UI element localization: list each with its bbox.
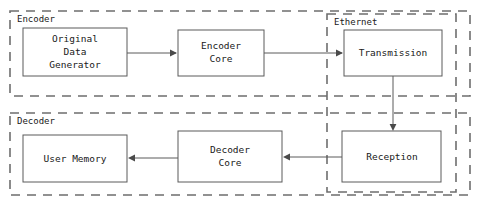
arrowhead-left-icon (283, 154, 290, 161)
group-encoder-label: Encoder (17, 14, 56, 24)
block-user-memory[interactable]: User Memory (23, 135, 127, 182)
block-decoder-core[interactable]: Decoder Core (178, 131, 282, 182)
block-label-line-2: Core (219, 157, 242, 168)
block-reception[interactable]: Reception (342, 131, 441, 182)
block-label-line-3: Generator (49, 59, 101, 70)
arrowhead-right-icon (336, 50, 343, 57)
group-ethernet-label: Ethernet (334, 17, 377, 27)
block-label-line-1: Original (52, 33, 98, 44)
connection-gen-to-encoder-core (127, 50, 177, 57)
group-decoder-label: Decoder (17, 116, 56, 126)
block-encoder-core[interactable]: Encoder Core (178, 30, 264, 76)
block-label-line-2: Core (210, 53, 233, 64)
block-original-data-generator[interactable]: Original Data Generator (23, 28, 127, 76)
block-label-line-1: Encoder (201, 40, 241, 51)
arrowhead-down-icon (390, 124, 397, 131)
arrowhead-left-icon (128, 155, 135, 162)
block-label-line-2: Data (64, 46, 87, 57)
block-label-line-1: User Memory (44, 153, 107, 164)
block-label-line-1: Transmission (359, 47, 428, 58)
block-diagram: Encoder Decoder Ethernet (0, 0, 482, 214)
block-label-line-1: Reception (366, 151, 417, 162)
connection-transmission-to-reception (390, 76, 397, 131)
block-transmission[interactable]: Transmission (344, 30, 442, 76)
connection-decoder-core-to-user-memory (128, 155, 178, 162)
arrowhead-right-icon (170, 50, 177, 57)
connection-reception-to-decoder-core (283, 154, 342, 161)
block-label-line-1: Decoder (210, 144, 250, 155)
diagram-canvas: Encoder Decoder Ethernet (0, 0, 482, 214)
connection-encoder-core-to-transmission (264, 50, 343, 57)
